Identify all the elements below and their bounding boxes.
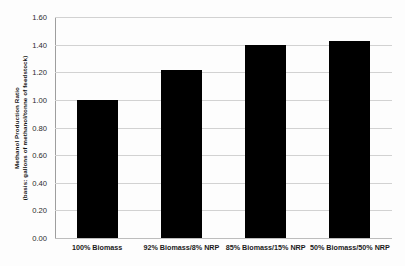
y-axis-tick-label: 0.60 [32, 151, 47, 160]
bar [161, 70, 202, 238]
gridline [55, 238, 392, 239]
y-axis-tick-label: 0.00 [32, 234, 47, 243]
y-axis-tick-label: 0.80 [32, 123, 47, 132]
y-axis-tick-labels: 0.000.200.400.600.801.001.201.401.60 [0, 0, 52, 266]
y-axis-tick-label: 1.20 [32, 68, 47, 77]
x-axis-tick-label: 92% Biomass/8% NRP [143, 243, 219, 252]
y-axis-tick-label: 1.60 [32, 13, 47, 22]
bar [77, 100, 118, 238]
y-axis-tick-label: 0.20 [32, 206, 47, 215]
x-axis-tick-label: 85% Biomass/15% NRP [226, 243, 306, 252]
x-axis-tick-labels: 100% Biomass92% Biomass/8% NRP85% Biomas… [55, 243, 392, 263]
plot-area [55, 17, 392, 238]
bar-chart-figure: Methanol Production Ratio (basis: gallon… [0, 0, 405, 266]
y-axis-tick-label: 1.00 [32, 95, 47, 104]
y-axis-tick-label: 0.40 [32, 178, 47, 187]
gridline [55, 17, 392, 18]
y-axis-tick-label: 1.40 [32, 40, 47, 49]
bar [245, 45, 286, 238]
x-axis-tick-label: 50% Biomass/50% NRP [310, 243, 390, 252]
bar [329, 41, 370, 238]
x-axis-tick-label: 100% Biomass [72, 243, 122, 252]
